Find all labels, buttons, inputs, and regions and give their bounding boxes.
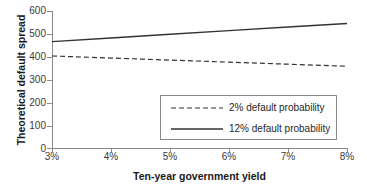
chart-figure: Theoretical default spread 600 500 400 3… [0,0,367,189]
legend-swatch-dashed-icon [169,102,225,114]
series-line-2pct [52,56,347,66]
legend-entry: 12% default probability [161,118,336,139]
y-axis-ticks [47,11,52,148]
series-line-12pct [52,24,347,42]
x-axis-ticks [52,148,347,152]
legend-label: 12% default probability [229,123,330,134]
legend-label: 2% default probability [229,102,325,113]
legend-swatch-solid-icon [169,123,225,135]
chart-legend: 2% default probability 12% default proba… [160,95,337,140]
legend-entry: 2% default probability [161,97,336,118]
x-axis-title: Ten-year government yield [52,170,347,182]
